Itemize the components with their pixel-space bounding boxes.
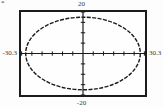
plot-area [21, 12, 145, 95]
y-max-label: 20 [0, 0, 163, 8]
page: * 20 -30.3 30.3 -20 [0, 0, 163, 108]
plot-canvas [21, 12, 145, 95]
plot-window [19, 10, 147, 97]
y-min-label: -20 [0, 99, 163, 107]
x-max-label: 30.3 [149, 49, 163, 57]
x-min-label: -30.3 [0, 49, 17, 57]
